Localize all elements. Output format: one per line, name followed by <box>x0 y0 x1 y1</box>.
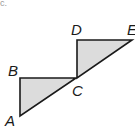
corner-label: c. <box>0 0 7 8</box>
geometry-figure: c. B A C D E <box>0 0 135 128</box>
label-c: C <box>72 82 83 99</box>
label-e: E <box>127 21 135 38</box>
label-d: D <box>71 21 82 38</box>
label-a: A <box>4 112 15 128</box>
triangle-abc <box>20 78 76 116</box>
label-b: B <box>8 62 18 79</box>
triangle-dce <box>77 40 132 78</box>
